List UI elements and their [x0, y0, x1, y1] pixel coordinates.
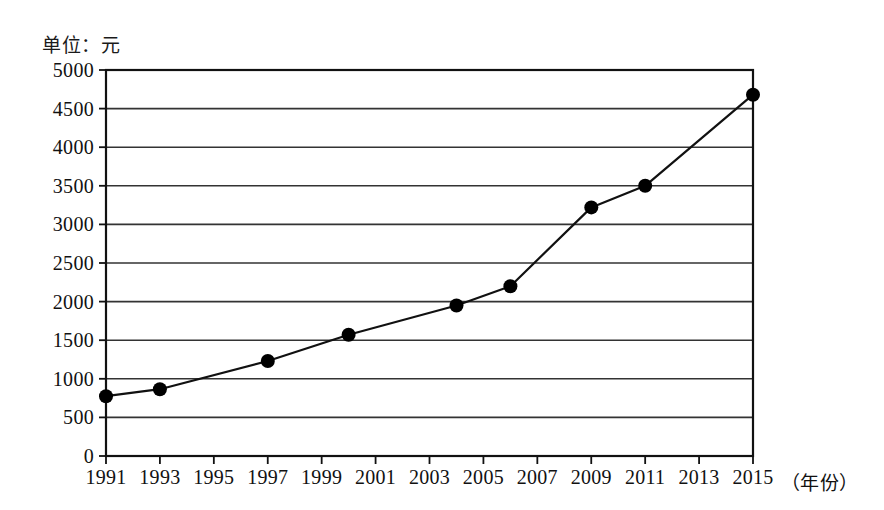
y-axis-tick-label: 5000: [28, 59, 94, 82]
data-point-markers: [99, 88, 760, 404]
data-point-marker: [746, 88, 760, 102]
y-axis-tick-label: 3500: [28, 174, 94, 197]
x-axis-tick-label: 1991: [76, 466, 136, 489]
data-point-marker: [638, 179, 652, 193]
data-point-marker: [99, 389, 113, 403]
data-point-marker: [450, 299, 464, 313]
data-point-marker: [153, 382, 167, 396]
y-axis-tick-label: 2000: [28, 290, 94, 313]
y-axis-tick-label: 4000: [28, 136, 94, 159]
data-point-marker: [503, 279, 517, 293]
x-axis-tick-label: 2013: [669, 466, 729, 489]
x-axis-ticks: [106, 456, 753, 464]
x-axis-tick-label: 2015: [723, 466, 783, 489]
y-axis-tick-label: 2500: [28, 252, 94, 275]
x-axis-tick-label: 2001: [346, 466, 406, 489]
chart-page: 单位：元 50004500400035003000250020001500100…: [0, 0, 884, 510]
x-axis-title: （年份）: [781, 468, 858, 495]
x-axis-tick-label: 2003: [400, 466, 460, 489]
y-axis-tick-label: 4500: [28, 97, 94, 120]
line-chart: 5000450040003500300025002000150010005000…: [0, 0, 884, 510]
data-point-marker: [584, 200, 598, 214]
x-axis-tick-label: 2011: [615, 466, 675, 489]
y-axis-tick-label: 1000: [28, 367, 94, 390]
gridlines: [106, 109, 753, 418]
data-point-marker: [261, 354, 275, 368]
chart-svg: [0, 0, 884, 510]
x-axis-tick-label: 1995: [184, 466, 244, 489]
x-axis-tick-label: 2007: [507, 466, 567, 489]
x-axis-tick-label: 1999: [292, 466, 352, 489]
x-axis-tick-label: 2005: [453, 466, 513, 489]
y-axis-tick-label: 500: [28, 406, 94, 429]
data-series-line: [106, 95, 753, 397]
x-axis-tick-label: 2009: [561, 466, 621, 489]
x-axis-tick-label: 1993: [130, 466, 190, 489]
data-point-marker: [342, 328, 356, 342]
y-axis-tick-label: 3000: [28, 213, 94, 236]
x-axis-tick-label: 1997: [238, 466, 298, 489]
y-axis-tick-label: 0: [28, 445, 94, 468]
y-axis-tick-label: 1500: [28, 329, 94, 352]
